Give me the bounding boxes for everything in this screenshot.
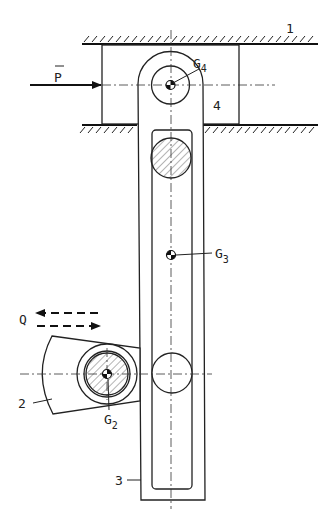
label-ground-1: 1 [286,21,294,36]
label-slider-4: 4 [213,98,221,113]
center-of-mass-g3-icon [167,251,176,260]
mechanism-diagram: 1 4 P Q 2 3 G4 G3 G2 [0,0,334,523]
label-force-p: P [54,70,62,85]
label-link-3: 3 [115,473,123,488]
roller [152,353,192,393]
slotted-link-outline [138,52,205,501]
ground-guide-top [82,36,318,44]
center-of-mass-g4-icon [166,81,175,90]
label-g3: G3 [215,246,229,265]
force-q-arrows [35,309,101,330]
label-force-q: Q [19,312,27,327]
label-g2: G2 [104,412,118,431]
center-of-mass-g2-icon [103,370,112,379]
label-arm-2: 2 [18,396,26,411]
